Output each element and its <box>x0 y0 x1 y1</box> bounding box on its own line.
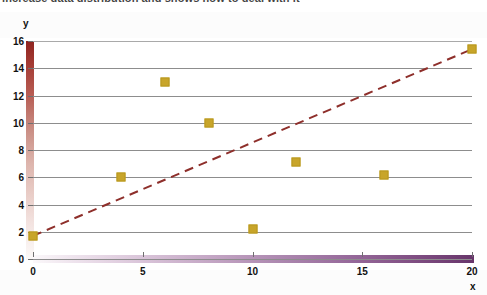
y-axis-tick-label: 0 <box>0 254 24 265</box>
y-axis-tick-labels: 0246810121416 <box>0 0 24 295</box>
trendline <box>33 49 472 236</box>
x-axis-tick <box>472 252 473 257</box>
x-axis-tick-label: 20 <box>466 266 477 277</box>
paper-texture-band <box>0 12 487 38</box>
y-axis-tick-label: 4 <box>0 199 24 210</box>
data-point-marker <box>292 158 301 167</box>
data-point-marker <box>29 231 38 240</box>
x-axis-title: x <box>470 281 476 292</box>
paper-texture-band <box>0 270 487 295</box>
y-axis-tick-label: 8 <box>0 145 24 156</box>
y-axis-tick-label: 6 <box>0 172 24 183</box>
x-axis-tick-label: 10 <box>247 266 258 277</box>
y-axis-tick-label: 16 <box>0 36 24 47</box>
y-axis-tick-label: 14 <box>0 63 24 74</box>
data-point-marker <box>116 173 125 182</box>
data-point-marker <box>160 77 169 86</box>
y-axis-tick-label: 2 <box>0 226 24 237</box>
plot-area <box>33 41 472 259</box>
x-axis-tick-label: 15 <box>357 266 368 277</box>
data-point-marker <box>204 118 213 127</box>
gridline <box>33 259 472 260</box>
y-axis-tick-label: 12 <box>0 90 24 101</box>
scatter-chart-figure: y x 0246810121416 05101520 <box>0 0 487 295</box>
data-point-marker <box>380 170 389 179</box>
x-axis-tick-label: 5 <box>140 266 146 277</box>
y-axis-tick-label: 10 <box>0 117 24 128</box>
x-axis-tick-label: 0 <box>30 266 36 277</box>
data-point-marker <box>468 45 477 54</box>
data-point-marker <box>248 225 257 234</box>
